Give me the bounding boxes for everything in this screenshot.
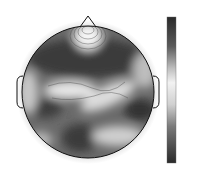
topographic-map	[0, 0, 200, 176]
colorbar	[167, 17, 176, 163]
